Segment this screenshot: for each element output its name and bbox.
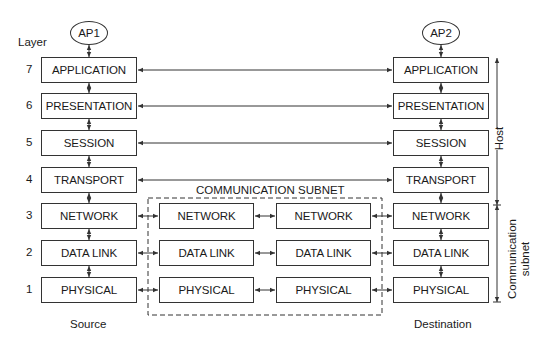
layer-header: Layer	[18, 36, 47, 48]
layer-number-4: 4	[26, 173, 32, 185]
dest-session-box: SESSION	[393, 130, 489, 156]
dest-application-box: APPLICATION	[393, 57, 489, 83]
layer-number-7: 7	[26, 63, 32, 75]
dest-presentation-box: PRESENTATION	[393, 93, 489, 119]
dest-network-box: NETWORK	[393, 203, 489, 229]
subnet-node1-network-box: NETWORK	[159, 203, 254, 229]
destination-caption: Destination	[414, 318, 472, 330]
layer-number-5: 5	[26, 136, 32, 148]
subnet-node2-datalink-box: DATA LINK	[276, 240, 371, 266]
layer-number-6: 6	[26, 99, 32, 111]
subnet-bracket-line2: subnet	[519, 214, 532, 304]
source-presentation-box: PRESENTATION	[41, 93, 137, 119]
layer-number-3: 3	[26, 209, 32, 221]
source-caption: Source	[70, 318, 106, 330]
source-session-box: SESSION	[41, 130, 137, 156]
source-application-box: APPLICATION	[41, 57, 137, 83]
dest-transport-box: TRANSPORT	[393, 167, 489, 193]
subnet-bracket-label: Communication subnet	[506, 214, 532, 304]
subnet-node2-physical-box: PHYSICAL	[276, 277, 371, 303]
dest-datalink-box: DATA LINK	[393, 240, 489, 266]
host-bracket-label: Host	[493, 127, 506, 151]
layer-number-2: 2	[26, 246, 32, 258]
subnet-bracket-line1: Communication	[506, 214, 519, 304]
subnet-node2-network-box: NETWORK	[276, 203, 371, 229]
source-physical-box: PHYSICAL	[41, 277, 137, 303]
subnet-node1-physical-box: PHYSICAL	[159, 277, 254, 303]
layer-number-1: 1	[26, 283, 32, 295]
source-transport-box: TRANSPORT	[41, 167, 137, 193]
dest-physical-box: PHYSICAL	[393, 277, 489, 303]
subnet-node1-datalink-box: DATA LINK	[159, 240, 254, 266]
ap2-ellipse: AP2	[422, 21, 460, 45]
subnet-title: COMMUNICATION SUBNET	[196, 184, 345, 196]
source-network-box: NETWORK	[41, 203, 137, 229]
source-datalink-box: DATA LINK	[41, 240, 137, 266]
ap1-ellipse: AP1	[70, 21, 108, 45]
